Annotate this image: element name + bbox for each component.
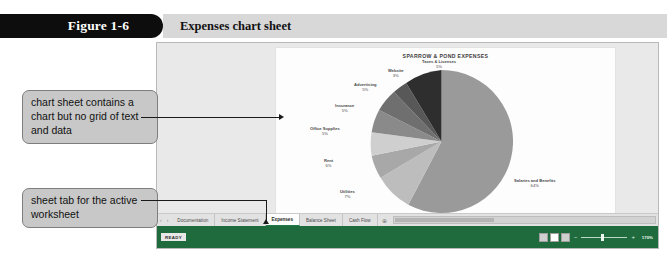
callout-tab-arrowhead [263,219,269,224]
page-break-view-icon[interactable] [561,233,570,242]
pie-label-office-supplies: Office Supplies 5% [310,126,340,136]
pie-label-rent: Rent 6% [324,158,333,168]
sheet-tab-expenses[interactable]: Expenses [266,214,300,226]
horizontal-scrollbar[interactable] [393,216,656,224]
normal-view-icon[interactable] [539,233,548,242]
sheet-tabs: Documentation Income Statement Expenses … [171,214,377,226]
excel-window: SPARROW & POND EXPENSES [156,42,659,249]
chart-sheet-area: SPARROW & POND EXPENSES [157,43,658,226]
pie-chart[interactable]: Taxes & Licenses 5% Website 3% Advertisi… [326,62,576,220]
pie-label-utilities: Utilities 7% [340,189,355,199]
tab-next-icon[interactable]: › [167,218,169,223]
pie-label-taxes-licenses: Taxes & Licenses 5% [422,59,456,69]
pie-label-advertising: Advertising 5% [354,82,377,92]
callout-chart-sheet: chart sheet contains a chart but no grid… [22,90,158,144]
zoom-out-icon[interactable]: − [574,234,578,240]
zoom-thumb[interactable] [601,234,604,241]
chart-canvas[interactable]: SPARROW & POND EXPENSES [275,47,616,223]
sheet-tab-cash-flow[interactable]: Cash Flow [343,214,378,226]
tab-prev-icon[interactable]: ‹ [160,218,162,223]
add-sheet-icon[interactable]: ⊕ [378,214,391,226]
pie-label-website: Website 3% [388,68,404,78]
sheet-tab-balance-sheet[interactable]: Balance Sheet [300,214,343,226]
callout-chart-leader-line [141,117,279,118]
zoom-in-icon[interactable]: + [631,234,635,240]
status-bar: READY − + 170% [157,226,658,248]
zoom-percent-label[interactable]: 170% [639,235,653,240]
pie-slices [370,70,513,213]
sheet-tab-nav[interactable]: ‹ › [157,214,171,226]
callout-chart-arrowhead [279,114,284,120]
callout-sheet-tab: sheet tab for the active worksheet [22,188,158,228]
view-buttons[interactable] [539,233,570,242]
callout-chart-sheet-text: chart sheet contains a chart but no grid… [31,96,138,136]
sheet-tab-documentation[interactable]: Documentation [171,214,215,226]
pie-label-insurance: Insurance 5% [335,103,354,113]
status-mode-label: READY [161,233,186,241]
status-bar-right: − + 170% [539,233,653,242]
zoom-slider[interactable] [581,234,627,241]
pie-label-salaries-benefits: Salaries and Benefits 64% [514,178,555,188]
figure-number-label: Figure 1-6 [68,18,129,34]
figure-caption-strip: Expenses chart sheet [163,14,667,38]
callout-tab-leader-line [141,200,267,201]
sheet-tab-bar: ‹ › Documentation Income Statement Expen… [157,213,658,226]
sheet-tab-income-statement[interactable]: Income Statement [215,214,265,226]
figure-number-banner: Figure 1-6 [0,14,163,38]
callout-sheet-tab-text: sheet tab for the active worksheet [31,194,137,220]
zoom-track [581,237,627,238]
page-layout-view-icon[interactable] [550,233,559,242]
figure-caption: Expenses chart sheet [180,19,291,34]
